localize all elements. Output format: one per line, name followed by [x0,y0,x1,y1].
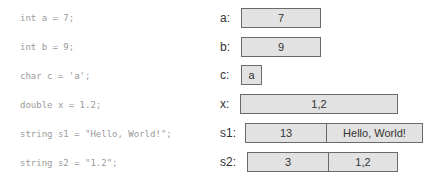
code-line-double-x: double x = 1.2; [20,99,101,111]
value-cell: 1,2 [241,95,397,113]
length-cell: 3 [248,153,328,171]
chars-cell: 1,2 [328,153,397,171]
code-line-char-c: char c = 'a'; [20,70,90,82]
var-label-c: c: [220,65,229,85]
code-line-string-s2: string s2 = "1.2"; [20,157,118,169]
memory-box-b: 9 [241,37,321,57]
var-label-b: b: [220,37,230,57]
value-cell: 7 [242,9,320,27]
length-cell: 13 [246,124,326,142]
memory-box-s1: 13 Hello, World! [245,123,423,143]
var-label-x: x: [220,94,229,114]
code-line-int-b: int b = 9; [20,41,74,53]
value-cell: a [242,66,261,84]
code-line-string-s1: string s1 = "Hello, World!"; [20,128,172,140]
memory-box-a: 7 [241,8,321,28]
var-label-s2: s2: [220,152,236,172]
memory-box-s2: 3 1,2 [247,152,398,172]
chars-cell: Hello, World! [326,124,422,142]
memory-box-x: 1,2 [240,94,398,114]
var-label-s1: s1: [220,123,236,143]
code-line-int-a: int a = 7; [20,12,74,24]
value-cell: 9 [242,38,320,56]
memory-box-c: a [241,65,262,85]
var-label-a: a: [220,8,230,28]
